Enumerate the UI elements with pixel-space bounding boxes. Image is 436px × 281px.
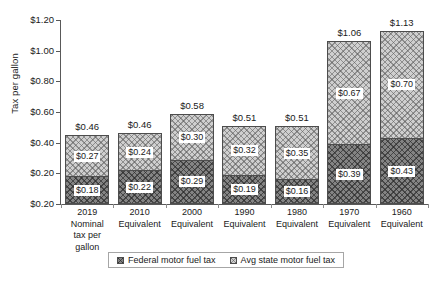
bar-stack: $0.32$0.19 [222,126,266,204]
bar-segment-avg-state-motor-fuel-tax[interactable]: $0.70 [380,31,424,138]
x-axis-tick-label: 2010 Equivalent [113,207,165,253]
bar-group[interactable]: $0.46$0.27$0.18 [65,20,109,204]
x-axis-tick-labels: 2019 Nominal tax per gallon2010 Equivale… [61,207,428,253]
x-axis-tick-label: 1960 Equivalent [376,207,428,253]
bar-total-label: $1.13 [390,17,414,28]
y-axis-tick-mark [56,143,61,144]
legend-item[interactable]: Federal motor fuel tax [117,255,216,265]
x-axis-tick-mark [113,204,114,208]
bar-group[interactable]: $1.06$0.67$0.39 [327,20,371,204]
bar-stack: $0.35$0.16 [275,126,319,204]
bar-segment-federal-motor-fuel-tax[interactable]: $0.39 [327,144,371,204]
y-axis-tick-mark [56,173,61,174]
bar-segment-federal-motor-fuel-tax[interactable]: $0.29 [170,160,214,204]
bar-stack: $0.27$0.18 [65,135,109,204]
y-axis-tick-label: $0.40 [8,138,54,148]
y-axis-tick-mark [56,112,61,113]
x-axis-tick-mark [271,204,272,208]
y-axis-tick-label: $0.20 [8,199,54,209]
x-axis-tick-mark [376,204,377,208]
bar-group[interactable]: $1.13$0.70$0.43 [380,20,424,204]
x-axis-tick-mark [61,204,62,208]
bar-total-label: $0.58 [180,100,204,111]
x-axis-tick-label: 1980 Equivalent [271,207,323,253]
bar-stack: $0.30$0.29 [170,114,214,204]
bar-segment-label: $0.35 [284,148,311,159]
bar-segment-label: $0.43 [388,166,415,177]
bar-stack: $0.24$0.22 [118,133,162,204]
bar-segment-avg-state-motor-fuel-tax[interactable]: $0.67 [327,41,371,144]
y-axis-tick-label: $0.80 [8,76,54,86]
bar-total-label: $0.46 [75,121,99,132]
y-axis-tick-mark [56,51,61,52]
bar-segment-label: $0.24 [126,147,153,158]
bar-stack: $0.67$0.39 [327,41,371,204]
legend-item-label: Avg state motor fuel tax [241,255,335,265]
state-swatch-icon [230,257,237,264]
x-axis-tick-label: 1970 Equivalent [323,207,375,253]
bar-group[interactable]: $0.46$0.24$0.22 [118,20,162,204]
x-axis-tick-mark [218,204,219,208]
x-axis-tick-mark [166,204,167,208]
legend-item[interactable]: Avg state motor fuel tax [230,255,335,265]
bar-segment-label: $0.16 [284,186,311,197]
federal-swatch-icon [117,257,124,264]
bar-segment-label: $0.19 [231,184,258,195]
y-axis-tick-label: $0.20 [8,168,54,178]
y-axis-tick-label: $1.20 [8,15,54,25]
bar-segment-label: $0.70 [388,79,415,90]
legend-item-label: Federal motor fuel tax [128,255,216,265]
x-axis-tick-label: 2019 Nominal tax per gallon [61,207,113,253]
bar-total-label: $0.51 [233,112,257,123]
y-axis-tick-label: $0.60 [8,107,54,117]
bar-segment-federal-motor-fuel-tax[interactable]: $0.19 [222,175,266,204]
bar-segment-federal-motor-fuel-tax[interactable]: $0.22 [118,170,162,204]
bar-segment-federal-motor-fuel-tax[interactable]: $0.43 [380,138,424,204]
x-axis-tick-label: 1990 Equivalent [218,207,270,253]
bar-segment-label: $0.39 [336,169,363,180]
bar-total-label: $0.51 [285,112,309,123]
chart-legend: Federal motor fuel taxAvg state motor fu… [108,252,344,268]
bar-segment-federal-motor-fuel-tax[interactable]: $0.18 [65,176,109,204]
x-axis-tick-label: 2000 Equivalent [166,207,218,253]
bar-segment-avg-state-motor-fuel-tax[interactable]: $0.35 [275,126,319,180]
bar-segment-avg-state-motor-fuel-tax[interactable]: $0.32 [222,126,266,175]
bar-total-label: $0.46 [128,119,152,130]
x-axis-tick-mark [323,204,324,208]
bar-segment-label: $0.67 [336,88,363,99]
bar-series-container: $0.46$0.27$0.18$0.46$0.24$0.22$0.58$0.30… [61,20,428,204]
bar-segment-avg-state-motor-fuel-tax[interactable]: $0.30 [170,114,214,160]
bar-segment-label: $0.29 [179,176,206,187]
bar-segment-avg-state-motor-fuel-tax[interactable]: $0.27 [65,135,109,176]
bar-segment-label: $0.22 [126,182,153,193]
stacked-bar-chart: Tax per gallon $1.20$1.00$0.80$0.60$0.40… [0,0,436,281]
bar-segment-avg-state-motor-fuel-tax[interactable]: $0.24 [118,133,162,170]
bar-segment-label: $0.30 [179,132,206,143]
bar-segment-label: $0.18 [74,185,101,196]
bar-group[interactable]: $0.51$0.35$0.16 [275,20,319,204]
bar-segment-label: $0.27 [74,151,101,162]
y-axis-tick-mark [56,20,61,21]
y-axis-tick-labels: $1.20$1.00$0.80$0.60$0.40$0.20$0.20 [8,20,54,205]
x-axis-tick-mark [428,204,429,208]
x-axis-line [60,204,428,205]
bar-segment-label: $0.32 [231,145,258,156]
y-axis-tick-mark [56,81,61,82]
bar-group[interactable]: $0.51$0.32$0.19 [222,20,266,204]
bar-group[interactable]: $0.58$0.30$0.29 [170,20,214,204]
bar-stack: $0.70$0.43 [380,31,424,204]
bar-total-label: $1.06 [337,27,361,38]
bar-segment-federal-motor-fuel-tax[interactable]: $0.16 [275,179,319,204]
y-axis-tick-label: $1.00 [8,46,54,56]
